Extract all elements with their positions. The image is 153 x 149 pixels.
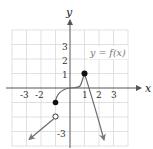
x-tick-labels: -3 -2 1 2 3 [20,90,117,100]
svg-text:2: 2 [62,56,68,66]
svg-text:1: 1 [62,70,68,80]
open-point-neg1-neg2 [53,114,58,119]
function-graph: x y -3 -2 1 2 3 3 2 1 -3 y = f(x) [0,0,153,149]
closed-point-neg1-neg1 [53,100,59,106]
svg-text:-2: -2 [35,90,44,100]
svg-text:3: 3 [111,90,117,100]
x-axis-label: x [145,82,152,95]
curves [29,74,104,141]
function-label: y = f(x) [89,47,126,58]
svg-text:-3: -3 [57,129,66,139]
svg-text:3: 3 [62,42,68,52]
svg-text:1: 1 [82,90,88,100]
closed-point-1-1 [82,71,88,77]
svg-text:-3: -3 [20,90,29,100]
right-descending [85,74,105,141]
svg-text:2: 2 [96,90,102,100]
y-axis-label: y [65,6,73,19]
